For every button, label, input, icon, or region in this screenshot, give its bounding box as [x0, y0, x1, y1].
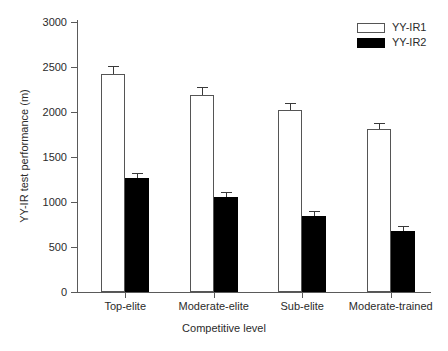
legend-label: YY-IR1: [392, 22, 426, 33]
x-axis-label-moderate-trained: Moderate-trained: [331, 300, 448, 312]
error-bar-cap: [132, 173, 143, 174]
error-bar-cap: [197, 87, 208, 88]
y-axis-tick: [71, 202, 77, 203]
y-axis-tick-label: 2500: [21, 62, 67, 73]
error-bar-cap: [398, 226, 409, 227]
legend-swatch-icon: [357, 23, 385, 33]
legend-item-yy-ir2: YY-IR2: [357, 35, 426, 50]
x-axis-tick: [302, 293, 303, 298]
error-bar-cap: [221, 192, 232, 193]
y-axis-tick-label: 500: [21, 242, 67, 253]
y-axis-tick: [71, 22, 77, 23]
bar-yy-ir2-moderate-trained: [391, 231, 415, 292]
y-axis-tick-label: 3000: [21, 17, 67, 28]
y-axis-tick-label: 2000: [21, 107, 67, 118]
y-axis-tick-label: 1500: [21, 152, 67, 163]
error-bar-cap: [108, 66, 119, 67]
y-axis-line: [77, 20, 78, 293]
bar-yy-ir2-moderate-elite: [214, 197, 238, 292]
y-axis-tick-label: 0: [21, 287, 67, 298]
legend-label: YY-IR2: [392, 37, 426, 48]
x-axis-tick: [125, 293, 126, 298]
bar-yy-ir1-sub-elite: [278, 110, 302, 292]
y-axis-tick-label: 1000: [21, 197, 67, 208]
bar-yy-ir1-moderate-elite: [190, 95, 214, 292]
chart-legend: YY-IR1YY-IR2: [357, 20, 426, 50]
error-bar-cap: [374, 123, 385, 124]
error-bar-stem: [113, 66, 114, 75]
bar-yy-ir1-moderate-trained: [367, 129, 391, 292]
y-axis-tick: [71, 67, 77, 68]
bar-yy-ir2-sub-elite: [302, 216, 326, 292]
error-bar-stem: [290, 103, 291, 110]
y-axis-tick: [71, 157, 77, 158]
error-bar-stem: [202, 87, 203, 95]
x-axis-line: [77, 292, 431, 293]
x-axis-title: Competitive level: [0, 322, 448, 334]
error-bar-cap: [285, 103, 296, 104]
y-axis-tick: [71, 247, 77, 248]
error-bar-cap: [309, 211, 320, 212]
bar-yy-ir2-top-elite: [125, 178, 149, 292]
legend-item-yy-ir1: YY-IR1: [357, 20, 426, 35]
y-axis-tick: [71, 292, 77, 293]
x-axis-tick: [391, 293, 392, 298]
x-axis-tick: [214, 293, 215, 298]
legend-swatch-icon: [357, 38, 385, 48]
y-axis-tick: [71, 112, 77, 113]
bar-yy-ir1-top-elite: [101, 74, 125, 292]
chart-figure: YY-IR test performance (m) 0500100015002…: [0, 0, 448, 351]
